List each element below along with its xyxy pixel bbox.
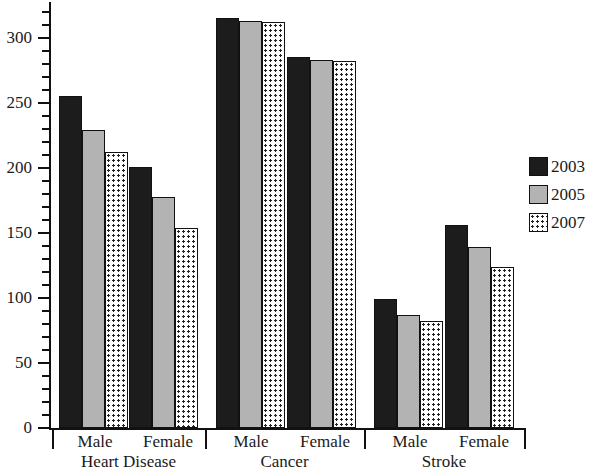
x-axis-group-separator	[524, 430, 526, 449]
bar-cancer-female-2005	[310, 60, 333, 428]
x-group-label-heart-disease: Heart Disease	[52, 452, 205, 471]
x-sublabel-cancer-female: Female	[285, 432, 365, 451]
legend-item-2007[interactable]: 2007	[529, 211, 591, 234]
bar-stroke-female-2007	[491, 267, 514, 428]
y-tick-minor	[42, 323, 49, 325]
bar-stroke-female-2005	[468, 247, 491, 428]
legend-label-2007: 2007	[551, 213, 585, 232]
y-tick-major-100	[38, 297, 49, 299]
x-sublabel-cancer-male: Male	[214, 432, 288, 451]
y-tick-minor	[42, 401, 49, 403]
x-group-label-cancer: Cancer	[205, 452, 364, 471]
legend-item-2005[interactable]: 2005	[529, 183, 591, 206]
x-sublabel-heart-disease-female: Female	[128, 432, 208, 451]
y-tick-major-300	[38, 37, 49, 39]
legend-swatch-2005-icon	[529, 185, 548, 204]
y-axis-label-50: 50	[0, 354, 32, 371]
y-axis-label-150: 150	[0, 224, 32, 241]
bar-heart-disease-male-2007	[105, 152, 128, 428]
y-tick-minor	[42, 76, 49, 78]
bar-heart-disease-male-2003	[59, 96, 82, 428]
plot-area	[49, 0, 525, 428]
y-axis-label-250: 250	[0, 94, 32, 111]
bar-heart-disease-female-2007	[175, 228, 198, 428]
y-tick-major-50	[38, 362, 49, 364]
legend-label-2003: 2003	[551, 157, 585, 176]
y-tick-minor	[42, 24, 49, 26]
y-tick-minor	[42, 63, 49, 65]
y-tick-minor	[42, 50, 49, 52]
y-tick-minor	[42, 193, 49, 195]
bar-stroke-female-2003	[445, 225, 468, 428]
bar-stroke-male-2005	[397, 315, 420, 428]
x-sublabel-heart-disease-male: Male	[58, 432, 132, 451]
y-axis-label-200: 200	[0, 159, 32, 176]
bar-cancer-male-2007	[262, 22, 285, 428]
bar-chart: 300 250 200 150 100 50 0 Male Female Mal…	[0, 0, 592, 475]
y-axis-label-100: 100	[0, 289, 32, 306]
y-tick-minor	[42, 11, 49, 13]
x-sublabel-stroke-male: Male	[373, 432, 447, 451]
y-tick-minor	[42, 310, 49, 312]
bar-cancer-female-2007	[333, 61, 356, 428]
y-tick-major-200	[38, 167, 49, 169]
y-tick-minor	[42, 141, 49, 143]
y-tick-minor	[42, 258, 49, 260]
y-tick-major-250	[38, 102, 49, 104]
y-tick-minor	[42, 154, 49, 156]
bar-heart-disease-male-2005	[82, 130, 105, 428]
y-axis-label-300: 300	[0, 29, 32, 46]
bar-cancer-male-2003	[216, 18, 239, 428]
y-tick-minor	[42, 180, 49, 182]
x-group-label-stroke: Stroke	[364, 452, 524, 471]
y-axis-label-0: 0	[0, 419, 32, 436]
bar-cancer-female-2003	[287, 57, 310, 428]
legend-swatch-2007-icon	[529, 213, 548, 232]
bar-stroke-male-2003	[374, 299, 397, 428]
y-tick-minor	[42, 271, 49, 273]
legend-item-2003[interactable]: 2003	[529, 155, 591, 178]
y-tick-minor	[42, 414, 49, 416]
y-tick-minor	[42, 375, 49, 377]
x-axis-group-separator	[52, 430, 54, 449]
y-tick-minor	[42, 349, 49, 351]
legend: 2003 2005 2007	[529, 155, 591, 239]
y-tick-minor	[42, 284, 49, 286]
y-tick-major-150	[38, 232, 49, 234]
bar-cancer-male-2005	[239, 21, 262, 428]
y-tick-minor	[42, 206, 49, 208]
x-sublabel-stroke-female: Female	[444, 432, 524, 451]
bar-stroke-male-2007	[420, 321, 443, 428]
legend-label-2005: 2005	[551, 185, 585, 204]
y-tick-minor	[42, 89, 49, 91]
y-tick-minor	[42, 219, 49, 221]
y-tick-minor	[42, 336, 49, 338]
y-tick-minor	[42, 388, 49, 390]
y-tick-minor	[42, 245, 49, 247]
y-tick-minor	[42, 128, 49, 130]
y-tick-major-0	[38, 427, 49, 429]
y-tick-minor	[42, 115, 49, 117]
bar-heart-disease-female-2005	[152, 197, 175, 428]
legend-swatch-2003-icon	[529, 157, 548, 176]
x-axis-line	[49, 428, 526, 430]
bar-heart-disease-female-2003	[129, 167, 152, 428]
